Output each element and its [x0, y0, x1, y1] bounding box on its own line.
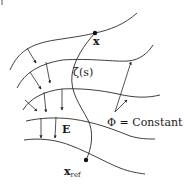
field-arrow	[44, 92, 46, 112]
field-e-label: E	[62, 124, 70, 135]
equipotential-line-3	[23, 89, 160, 110]
field-arrow	[30, 72, 41, 89]
equipotential-label: Φ = Constant	[107, 117, 182, 128]
equipotential-line-5	[24, 139, 145, 174]
field-arrow	[25, 100, 37, 111]
field-arrow	[46, 62, 50, 83]
path-zeta	[72, 33, 95, 160]
point-x-label: x	[93, 36, 100, 47]
field-arrow	[27, 48, 36, 63]
point-xref-dot	[84, 158, 88, 162]
point-xref-label: xref	[64, 166, 81, 179]
path-zeta-label: ζ(s)	[73, 67, 93, 78]
point-xref-sub: ref	[71, 171, 81, 179]
equipotential-diagram	[0, 0, 187, 189]
field-arrow	[55, 117, 56, 138]
path-zeta-text: ζ(s)	[73, 66, 93, 79]
